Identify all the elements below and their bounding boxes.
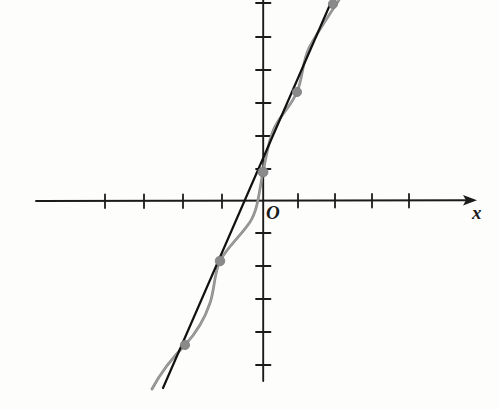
- origin-label: O: [266, 203, 280, 222]
- graph-canvas: [0, 0, 499, 410]
- axes-group: [36, 0, 477, 381]
- marked-point: [292, 87, 301, 96]
- marked-point: [215, 256, 225, 266]
- marked-point: [180, 340, 189, 349]
- wave-curve-shadow: [152, 0, 339, 389]
- straight-line: [163, 0, 332, 388]
- x-axis-label: x: [472, 203, 482, 222]
- marked-point: [328, 0, 337, 9]
- wave-curve: [152, 0, 339, 389]
- marked-points-group: [180, 0, 337, 350]
- x-axis-line: [36, 200, 470, 201]
- graph-figure: O x: [0, 0, 499, 410]
- marked-point: [258, 167, 268, 177]
